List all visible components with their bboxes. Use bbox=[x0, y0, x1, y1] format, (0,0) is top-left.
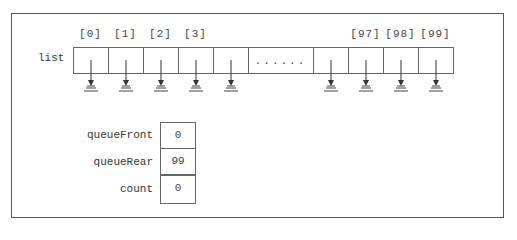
index-label-98: [98] bbox=[383, 28, 418, 40]
ground-icon bbox=[394, 60, 408, 95]
count-value: 0 bbox=[160, 175, 196, 204]
count-label: count bbox=[63, 183, 153, 195]
index-label-2: [2] bbox=[143, 28, 178, 40]
ground-icon bbox=[224, 60, 238, 95]
queue-front-label: queueFront bbox=[63, 129, 153, 141]
ground-icon bbox=[154, 60, 168, 95]
index-label-3: [3] bbox=[178, 28, 213, 40]
ground-icon bbox=[84, 60, 98, 95]
queue-rear-value: 99 bbox=[160, 148, 196, 175]
index-label-97: [97] bbox=[348, 28, 383, 40]
index-label-1: [1] bbox=[108, 28, 143, 40]
index-label-0: [0] bbox=[73, 28, 108, 40]
ground-icon bbox=[429, 60, 443, 95]
ground-icon bbox=[119, 60, 133, 95]
index-label-99: [99] bbox=[418, 28, 453, 40]
queue-front-value: 0 bbox=[160, 122, 196, 149]
ground-icon bbox=[189, 60, 203, 95]
queue-rear-label: queueRear bbox=[63, 156, 153, 168]
ground-icon bbox=[359, 60, 373, 95]
ellipsis: ...... bbox=[248, 55, 313, 67]
list-label: list bbox=[38, 52, 64, 64]
ground-icon bbox=[324, 60, 338, 95]
